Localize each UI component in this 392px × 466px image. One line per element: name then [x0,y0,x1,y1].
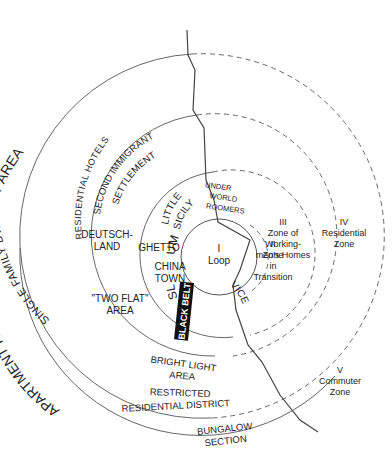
label-restricted-1: RESTRICTED [150,386,211,399]
zone-v-line2: Zone [330,387,351,397]
zone-iv-line1: Residential [322,228,367,238]
zone-iv-line2: Zone [334,239,355,249]
zone-ii-line3: Transition [253,272,292,282]
label-apartment-houses: APARTMENT HOUSES BRIGHT LIGHT AREA [0,144,62,420]
label-sl: SL [163,283,181,302]
label-single-family: SINGLE FAMILY DWELLINGS [0,172,51,327]
label-deutsch: DEUTSCH- [81,229,133,240]
label-ghetto: GHETTO [138,242,180,253]
label-bright-light-2: AREA [169,369,196,382]
zone-v-line1: Commuter [319,376,361,386]
label-land: LAND [94,241,121,252]
zone-iii-line3: men's Homes [256,250,311,260]
label-area: AREA [106,305,134,316]
label-vice: VICE [229,279,252,306]
zone-iii-line2: Working- [265,239,301,249]
label-under: UNDER [205,180,233,193]
zone-i-label: Loop [208,255,231,266]
zone-iv-numeral: IV [340,217,349,227]
zone-iii-numeral: III [279,217,287,227]
zone-i-numeral: I [218,243,221,254]
zone-ii-line2: in [269,261,276,271]
label-two-flat: "TWO FLAT" [92,293,149,304]
label-roomers: ROOMERS [206,201,246,215]
label-restricted-2: RESIDENTIAL DISTRICT [121,397,230,414]
zone-iii-line1: Zone of [268,228,299,238]
label-china: CHINA [154,261,185,272]
concentric-zone-diagram: SINGLE FAMILY DWELLINGS RESIDENTIAL HOTE… [0,0,392,466]
zone-v-numeral: V [337,365,343,375]
